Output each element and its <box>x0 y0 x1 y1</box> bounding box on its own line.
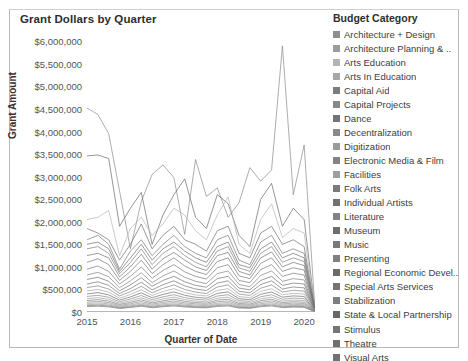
chart-screenshot: Grant Dollars by Quarter Grant Amount $0… <box>0 0 468 361</box>
legend-item-label: Special Arts Services <box>344 281 433 292</box>
legend-item[interactable]: Stabilization <box>333 294 461 308</box>
legend-swatch-icon <box>333 59 340 66</box>
y-axis-tick: $5,500,000 <box>34 58 82 69</box>
legend-item-label: Stabilization <box>344 295 395 306</box>
legend-item[interactable]: Arts In Education <box>333 69 461 83</box>
legend-item[interactable]: Presenting <box>333 252 461 266</box>
legend-title: Budget Category <box>333 12 461 24</box>
legend-item[interactable]: Theatre <box>333 336 461 350</box>
legend-swatch-icon <box>333 213 340 220</box>
legend-swatch-icon <box>333 31 340 38</box>
legend-item-label: Theatre <box>344 338 377 349</box>
legend-item[interactable]: Facilities <box>333 167 461 181</box>
legend-item-label: Architecture + Design <box>344 29 435 40</box>
legend-item-label: Decentralization <box>344 127 412 138</box>
legend-item-label: Facilities <box>344 169 381 180</box>
legend-item-label: Stimulus <box>344 324 380 335</box>
legend-item[interactable]: Special Arts Services <box>333 280 461 294</box>
legend-item[interactable]: Decentralization <box>333 125 461 139</box>
x-axis-tick: 2018 <box>207 316 228 327</box>
x-axis-tick: 2019 <box>250 316 271 327</box>
legend-item[interactable]: Visual Arts <box>333 350 461 361</box>
legend-item-label: Presenting <box>344 253 389 264</box>
legend-item[interactable]: Dance <box>333 111 461 125</box>
legend-swatch-icon <box>333 129 340 136</box>
legend-item[interactable]: State & Local Partnership <box>333 308 461 322</box>
legend-item[interactable]: Folk Arts <box>333 182 461 196</box>
legend-item-label: Arts Education <box>344 57 406 68</box>
legend-swatch-icon <box>333 73 340 80</box>
legend-item-label: Dance <box>344 113 371 124</box>
legend-item-label: Music <box>344 239 369 250</box>
y-axis-tick: $2,500,000 <box>34 194 82 205</box>
legend-item-label: Arts In Education <box>344 71 416 82</box>
legend-item-label: Electronic Media & Film <box>344 155 444 166</box>
legend-item-label: State & Local Partnership <box>344 309 452 320</box>
legend-swatch-icon <box>333 157 340 164</box>
legend-swatch-icon <box>333 241 340 248</box>
x-axis-tick: 2020 <box>294 316 315 327</box>
legend-item[interactable]: Electronic Media & Film <box>333 153 461 167</box>
legend-item-label: Museum <box>344 225 380 236</box>
legend-item[interactable]: Regional Economic Devel.. <box>333 266 461 280</box>
legend-swatch-icon <box>333 227 340 234</box>
legend-item[interactable]: Arts Education <box>333 55 461 69</box>
legend-swatch-icon <box>333 115 340 122</box>
legend-item-label: Capital Projects <box>344 99 411 110</box>
legend-swatch-icon <box>333 269 340 276</box>
x-axis-title: Quarter of Date <box>87 334 315 345</box>
y-axis-tick: $1,500,000 <box>34 239 82 250</box>
legend-item-label: Architecture Planning & .. <box>344 43 451 54</box>
legend-item-label: Individual Artists <box>344 197 413 208</box>
plot-area <box>87 30 315 312</box>
y-axis-tick: $4,000,000 <box>34 126 82 137</box>
legend-swatch-icon <box>333 101 340 108</box>
y-axis-tick: $3,000,000 <box>34 171 82 182</box>
legend-item-label: Capital Aid <box>344 85 389 96</box>
legend-item[interactable]: Capital Projects <box>333 97 461 111</box>
legend-swatch-icon <box>333 311 340 318</box>
legend-item-label: Literature <box>344 211 384 222</box>
legend-item[interactable]: Music <box>333 238 461 252</box>
legend-item[interactable]: Architecture Planning & .. <box>333 41 461 55</box>
legend-swatch-icon <box>333 45 340 52</box>
legend-swatch-icon <box>333 297 340 304</box>
legend-item-label: Visual Arts <box>344 352 389 361</box>
legend-swatch-icon <box>333 255 340 262</box>
legend-item[interactable]: Stimulus <box>333 322 461 336</box>
x-axis-tick: 2017 <box>163 316 184 327</box>
y-axis-tick: $4,500,000 <box>34 103 82 114</box>
legend-item[interactable]: Architecture + Design <box>333 27 461 41</box>
legend-item[interactable]: Capital Aid <box>333 83 461 97</box>
y-axis-tick-labels: $0$500,000$1,000,000$1,500,000$2,000,000… <box>22 30 82 312</box>
legend-swatch-icon <box>333 171 340 178</box>
legend-swatch-icon <box>333 326 340 333</box>
legend-swatch-icon <box>333 185 340 192</box>
legend-item[interactable]: Digitization <box>333 139 461 153</box>
legend: Budget Category Architecture + DesignArc… <box>333 12 461 361</box>
x-axis-tick-labels: 201520162017201820192020 <box>87 316 315 330</box>
legend-item-list: Architecture + DesignArchitecture Planni… <box>333 27 461 361</box>
y-axis-title: Grant Amount <box>7 72 18 139</box>
y-axis-tick: $5,000,000 <box>34 81 82 92</box>
line-chart-svg <box>87 30 315 312</box>
legend-item[interactable]: Individual Artists <box>333 196 461 210</box>
legend-swatch-icon <box>333 354 340 361</box>
legend-item[interactable]: Museum <box>333 224 461 238</box>
legend-item[interactable]: Literature <box>333 210 461 224</box>
legend-swatch-icon <box>333 87 340 94</box>
legend-swatch-icon <box>333 283 340 290</box>
legend-swatch-icon <box>333 340 340 347</box>
legend-swatch-icon <box>333 199 340 206</box>
x-axis-tick: 2015 <box>76 316 97 327</box>
page-title: Grant Dollars by Quarter <box>20 13 157 25</box>
y-axis-tick: $2,000,000 <box>34 216 82 227</box>
y-axis-tick: $1,000,000 <box>34 261 82 272</box>
y-axis-tick: $3,500,000 <box>34 149 82 160</box>
legend-item-label: Digitization <box>344 141 390 152</box>
y-axis-tick: $500,000 <box>42 284 82 295</box>
legend-swatch-icon <box>333 143 340 150</box>
x-axis-tick: 2016 <box>120 316 141 327</box>
legend-item-label: Regional Economic Devel.. <box>344 267 458 278</box>
y-axis-tick: $6,000,000 <box>34 36 82 47</box>
